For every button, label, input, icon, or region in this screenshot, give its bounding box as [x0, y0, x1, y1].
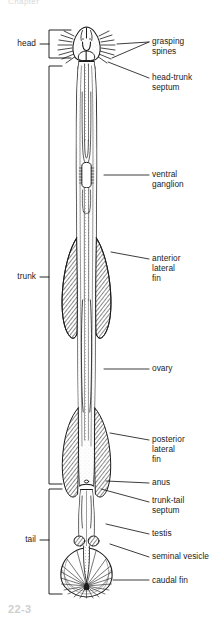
part-label-testis: testis — [152, 528, 220, 538]
part-label-posterior-lateral-fin: posterior lateral fin — [152, 434, 220, 465]
part-label-ventral-ganglion: ventral ganglion — [152, 169, 220, 189]
part-label-seminal-vesicle: seminal vesicle — [152, 551, 220, 561]
region-label-tail: tail — [0, 534, 36, 544]
trunk-region — [76, 62, 96, 487]
part-label-trunk-tail-septum: trunk-tail septum — [152, 495, 220, 515]
part-label-ovary: ovary — [152, 363, 220, 373]
arrow-worm-illustration — [0, 0, 220, 619]
ventral-ganglion-shape — [79, 162, 94, 187]
caudal-fin-shape — [61, 546, 112, 598]
part-label-caudal-fin: caudal fin — [152, 575, 220, 585]
tail-region — [61, 490, 112, 598]
figure-caption-fragment: 22-3 — [8, 603, 32, 615]
region-label-head: head — [0, 38, 36, 48]
part-label-anus: anus — [152, 477, 220, 487]
region-label-trunk: trunk — [0, 271, 36, 281]
anatomy-figure: Chapter — [0, 0, 220, 619]
part-label-head-trunk-septum: head-trunk septum — [152, 72, 220, 92]
part-label-anterior-lateral-fin: anterior lateral fin — [152, 253, 220, 284]
part-label-grasping-spines: grasping spines — [152, 36, 220, 56]
